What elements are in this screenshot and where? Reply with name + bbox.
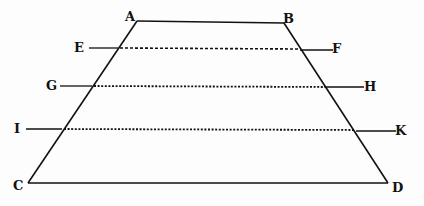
label-C: C bbox=[13, 178, 23, 193]
line-EF-dotted bbox=[120, 48, 300, 49]
label-I: I bbox=[14, 121, 20, 136]
label-G: G bbox=[46, 78, 57, 93]
label-B: B bbox=[283, 11, 294, 26]
label-D: D bbox=[392, 180, 403, 195]
diagram-canvas: A B E F G H I K C D bbox=[0, 0, 424, 206]
label-F: F bbox=[332, 41, 342, 56]
label-K: K bbox=[395, 123, 407, 138]
label-E: E bbox=[74, 40, 84, 55]
label-H: H bbox=[364, 79, 376, 94]
line-IK-dotted bbox=[64, 129, 355, 130]
side-AB bbox=[137, 21, 284, 23]
trapezoid-figure: A B E F G H I K C D bbox=[0, 0, 424, 206]
line-GH-dotted bbox=[94, 86, 326, 87]
label-A: A bbox=[124, 9, 136, 24]
